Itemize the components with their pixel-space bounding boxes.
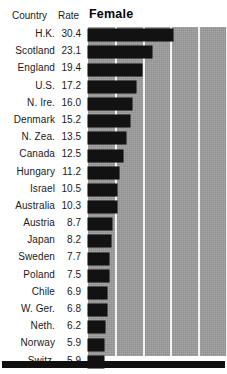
bar: [88, 81, 136, 93]
series-title-female: Female: [89, 7, 133, 21]
bar: [88, 287, 107, 299]
bar: [88, 132, 126, 144]
chart-row: Chile6.9: [0, 285, 227, 302]
row-rate-value: 11.2: [62, 166, 81, 177]
row-rate-value: 8.2: [67, 234, 81, 245]
row-rate-value: 7.7: [67, 251, 81, 262]
bar: [88, 201, 117, 213]
row-bar-cell: [88, 201, 117, 213]
row-country-label: Australia: [15, 200, 55, 211]
row-rate-value: 5.9: [67, 337, 81, 348]
bar: [88, 270, 109, 282]
row-bar-cell: [88, 150, 123, 162]
chart-row: Neth.6.2: [0, 319, 227, 336]
row-rate-value: 16.0: [62, 97, 81, 108]
row-bar-cell: [88, 115, 130, 127]
row-country-label: England: [18, 62, 55, 73]
row-rate-value: 17.2: [62, 80, 81, 91]
chart-row: Canada12.5: [0, 147, 227, 164]
chart-row: Japan8.2: [0, 233, 227, 250]
bar: [88, 339, 104, 351]
row-country-label: N. Ire.: [27, 97, 55, 108]
bar: [88, 115, 130, 127]
row-country-label: N. Zea.: [22, 131, 56, 142]
row-rate-value: 15.2: [62, 114, 81, 125]
chart-row: Norway5.9: [0, 336, 227, 353]
row-rate-value: 23.1: [62, 45, 81, 56]
chart-row: Austria8.7: [0, 216, 227, 233]
chart-row: Scotland23.1: [0, 44, 227, 61]
row-rate-value: 19.4: [62, 62, 81, 73]
row-bar-cell: [88, 218, 112, 230]
bar: [88, 321, 105, 333]
row-country-label: Denmark: [14, 114, 55, 125]
row-country-label: Israel: [30, 183, 55, 194]
row-bar-cell: [88, 321, 105, 333]
chart-row: W. Ger.6.8: [0, 302, 227, 319]
chart-row: Hungary11.2: [0, 165, 227, 182]
row-rate-value: 8.7: [67, 217, 81, 228]
row-country-label: H.K.: [35, 28, 55, 39]
chart-row: N. Ire.16.0: [0, 96, 227, 113]
chart-row: N. Zea.13.5: [0, 130, 227, 147]
row-rate-value: 6.9: [67, 286, 81, 297]
column-header-country: Country: [12, 10, 47, 21]
bar: [88, 64, 142, 76]
row-bar-cell: [88, 29, 173, 41]
chart-row: Australia10.3: [0, 199, 227, 216]
row-rate-value: 6.8: [67, 303, 81, 314]
row-bar-cell: [88, 253, 109, 265]
row-country-label: U.S.: [35, 80, 55, 91]
bar: [88, 253, 109, 265]
row-rate-value: 10.3: [62, 200, 81, 211]
chart-row: Poland7.5: [0, 268, 227, 285]
bar: [88, 218, 112, 230]
row-country-label: Canada: [19, 148, 55, 159]
row-rate-value: 7.5: [67, 269, 81, 280]
chart-row: Denmark15.2: [0, 113, 227, 130]
row-rate-value: 30.4: [62, 28, 81, 39]
figure-root: Country Rate Female H.K.30.4Scotland23.1…: [0, 0, 227, 374]
row-country-label: Norway: [21, 337, 56, 348]
row-country-label: Sweden: [18, 251, 55, 262]
row-country-label: Poland: [23, 269, 55, 280]
column-header-rate: Rate: [58, 10, 79, 21]
chart-row: Israel10.5: [0, 182, 227, 199]
chart-row: H.K.30.4: [0, 27, 227, 44]
row-bar-cell: [88, 64, 142, 76]
row-bar-cell: [88, 81, 136, 93]
row-country-label: Japan: [27, 234, 55, 245]
chart-row: Sweden7.7: [0, 250, 227, 267]
row-bar-cell: [88, 287, 107, 299]
row-country-label: Hungary: [17, 166, 56, 177]
row-rate-value: 10.5: [62, 183, 81, 194]
bar: [88, 150, 123, 162]
bottom-rule: [2, 361, 225, 368]
row-bar-cell: [88, 132, 126, 144]
bar: [88, 167, 119, 179]
chart-rows: H.K.30.4Scotland23.1England19.4U.S.17.2N…: [0, 27, 227, 371]
chart-row: England19.4: [0, 61, 227, 78]
row-country-label: Austria: [23, 217, 55, 228]
row-rate-value: 13.5: [62, 131, 81, 142]
row-bar-cell: [88, 235, 111, 247]
row-country-label: Scotland: [15, 45, 55, 56]
row-country-label: W. Ger.: [21, 303, 55, 314]
row-bar-cell: [88, 98, 132, 110]
row-bar-cell: [88, 270, 109, 282]
bar: [88, 29, 173, 41]
row-bar-cell: [88, 184, 117, 196]
row-country-label: Chile: [32, 286, 55, 297]
bar: [88, 235, 111, 247]
row-rate-value: 12.5: [62, 148, 81, 159]
bar: [88, 304, 107, 316]
chart-row: U.S.17.2: [0, 79, 227, 96]
row-country-label: Neth.: [31, 320, 55, 331]
row-rate-value: 6.2: [67, 320, 81, 331]
bar: [88, 98, 132, 110]
row-bar-cell: [88, 46, 152, 58]
bar: [88, 46, 152, 58]
row-bar-cell: [88, 167, 119, 179]
row-bar-cell: [88, 304, 107, 316]
row-bar-cell: [88, 339, 104, 351]
